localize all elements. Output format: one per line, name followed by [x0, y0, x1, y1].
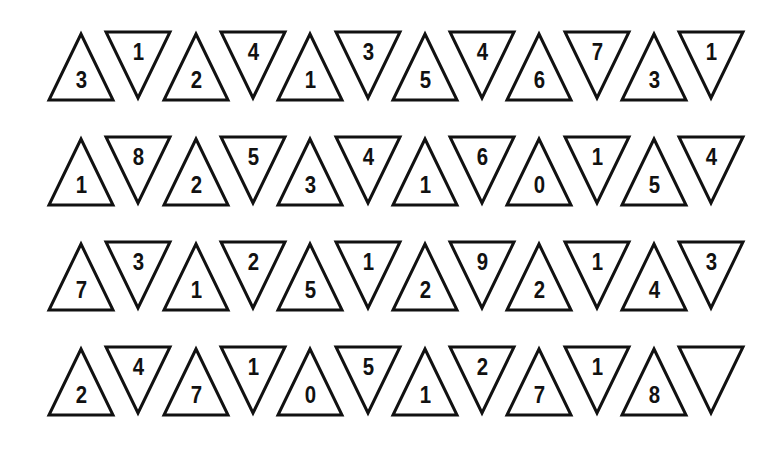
cell-number: 0 — [281, 381, 339, 409]
cell-number: 5 — [625, 171, 683, 199]
cell-number: 3 — [281, 171, 339, 199]
cell-number: 1 — [568, 353, 626, 381]
cell-number: 1 — [224, 353, 282, 381]
down-triangle-cell[interactable]: 4 — [677, 135, 745, 205]
cell-number: 1 — [109, 38, 167, 66]
cell-number: 7 — [510, 381, 568, 409]
cell-number: 1 — [396, 171, 454, 199]
cell-number: 3 — [52, 66, 110, 94]
cell-number: 9 — [453, 248, 511, 276]
cell-number: 2 — [224, 248, 282, 276]
cell-number: 4 — [224, 38, 282, 66]
cell-number: 4 — [453, 38, 511, 66]
cell-number: 3 — [682, 248, 740, 276]
puzzle-row-2: 182534160154 — [0, 135, 784, 215]
cell-number: 1 — [339, 248, 397, 276]
cell-number: 2 — [167, 171, 225, 199]
cell-number: 3 — [109, 248, 167, 276]
cell-number: 1 — [568, 248, 626, 276]
cell-number: 1 — [281, 66, 339, 94]
cell-number: 8 — [625, 381, 683, 409]
cell-number: 7 — [52, 276, 110, 304]
puzzle-row-4: 24710512718 — [0, 345, 784, 425]
triangle-down-icon — [677, 345, 745, 415]
triangle-number-puzzle: 3124135467311825341601547312512921432471… — [0, 0, 784, 453]
down-triangle-cell[interactable] — [677, 345, 745, 415]
cell-number: 5 — [224, 143, 282, 171]
cell-number: 5 — [281, 276, 339, 304]
cell-number: 3 — [339, 38, 397, 66]
cell-number: 1 — [167, 276, 225, 304]
cell-number: 6 — [453, 143, 511, 171]
puzzle-row-1: 312413546731 — [0, 30, 784, 110]
cell-number: 1 — [52, 171, 110, 199]
cell-number: 4 — [339, 143, 397, 171]
down-triangle-cell[interactable]: 1 — [677, 30, 745, 100]
cell-number: 1 — [396, 381, 454, 409]
cell-number: 1 — [568, 143, 626, 171]
cell-number: 6 — [510, 66, 568, 94]
cell-number: 4 — [625, 276, 683, 304]
cell-number: 7 — [167, 381, 225, 409]
cell-number: 0 — [510, 171, 568, 199]
cell-number: 3 — [625, 66, 683, 94]
puzzle-row-3: 731251292143 — [0, 240, 784, 320]
cell-number: 2 — [167, 66, 225, 94]
cell-number: 5 — [339, 353, 397, 381]
cell-number: 2 — [453, 353, 511, 381]
cell-number: 4 — [682, 143, 740, 171]
cell-number: 8 — [109, 143, 167, 171]
cell-number: 2 — [510, 276, 568, 304]
cell-number: 2 — [52, 381, 110, 409]
cell-number: 7 — [568, 38, 626, 66]
cell-number: 2 — [396, 276, 454, 304]
cell-number: 1 — [682, 38, 740, 66]
down-triangle-cell[interactable]: 3 — [677, 240, 745, 310]
cell-number: 5 — [396, 66, 454, 94]
cell-number: 4 — [109, 353, 167, 381]
